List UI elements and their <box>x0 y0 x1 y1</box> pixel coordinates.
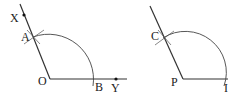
label-X: X <box>10 11 19 25</box>
label-P: P <box>171 75 178 89</box>
figure-right-angle-CPI: C P I <box>150 6 228 95</box>
label-C: C <box>151 29 159 43</box>
figure-left-angle-XOY: X A O B Y <box>10 4 127 95</box>
label-A: A <box>21 30 30 44</box>
label-B: B <box>95 80 103 94</box>
angle-construction-diagram: X A O B Y C P I <box>0 0 230 102</box>
point-X-dot <box>22 13 25 16</box>
label-Y: Y <box>111 81 120 95</box>
label-O: O <box>38 74 47 88</box>
arc-mark-C-2 <box>158 30 171 45</box>
label-I: I <box>224 81 228 95</box>
